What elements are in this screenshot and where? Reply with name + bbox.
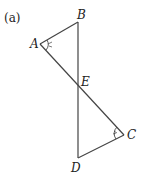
point-label-b: B: [77, 9, 86, 21]
point-label-d: D: [71, 162, 81, 174]
segment-AB: [40, 22, 78, 44]
segment-CD: [78, 135, 124, 158]
point-label-c: C: [127, 129, 136, 141]
point-label-e: E: [81, 76, 90, 88]
angle-mark-A-icon: [46, 40, 48, 50]
point-label-a: A: [30, 38, 39, 50]
segment-AC: [40, 44, 124, 135]
angle-tick-C-icon: [113, 131, 117, 134]
triangle-diagram: [0, 0, 146, 180]
